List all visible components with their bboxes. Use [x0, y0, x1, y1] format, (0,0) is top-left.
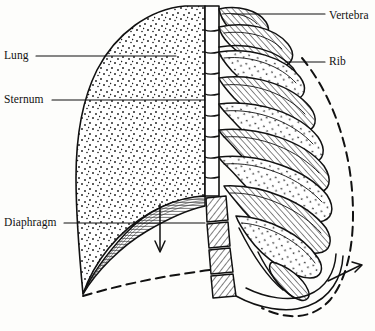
ribcage: [219, 8, 343, 310]
vertebral-column: [205, 6, 236, 298]
lowered-diaphragm-dashed: [83, 270, 214, 297]
label-vertebra: Vertebra: [329, 10, 369, 22]
label-rib: Rib: [329, 56, 346, 68]
thorax-diagram: [0, 0, 375, 331]
label-lung: Lung: [4, 50, 29, 62]
lung-shape: [76, 6, 205, 294]
diagram-page: Lung Sternum Diaphragm Vertebra Rib: [0, 0, 375, 331]
label-diaphragm: Diaphragm: [4, 217, 57, 229]
label-sternum: Sternum: [4, 94, 44, 106]
